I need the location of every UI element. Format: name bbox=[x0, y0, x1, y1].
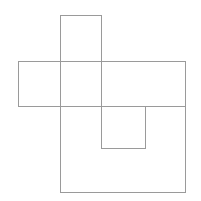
shape-small-square bbox=[102, 107, 146, 149]
figure-svg bbox=[0, 0, 201, 201]
shape-large-rectangle bbox=[61, 62, 186, 193]
figure-canvas bbox=[0, 0, 201, 201]
